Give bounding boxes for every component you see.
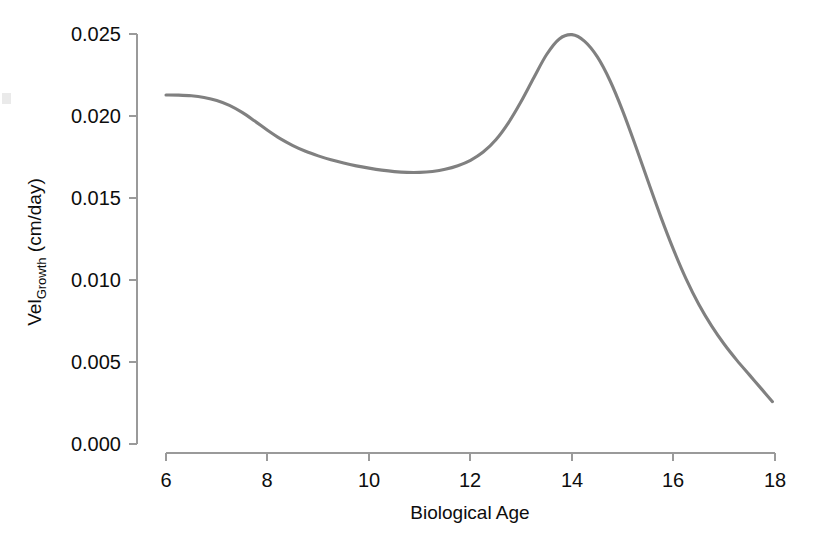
y-tick-label-0020: 0.020 (71, 105, 121, 127)
x-tick-label-14: 14 (561, 469, 583, 491)
y-axis-title: VelGrowth (cm/day) (24, 178, 49, 326)
y-tick-label-0015: 0.015 (71, 187, 121, 209)
x-axis-title: Biological Age (410, 502, 529, 523)
y-tick-label-0025: 0.025 (71, 23, 121, 45)
svg-text:VelGrowth (cm/day): VelGrowth (cm/day) (24, 178, 49, 326)
page-edge-artifact (2, 93, 11, 104)
x-tick-label-6: 6 (160, 469, 171, 491)
y-axis-title-units: (cm/day) (24, 178, 45, 252)
y-axis-title-subscript: Growth (34, 257, 49, 299)
y-tick-label-0010: 0.010 (71, 269, 121, 291)
series-line-growth-velocity (166, 35, 772, 402)
x-tick-label-18: 18 (764, 469, 786, 491)
y-tick-label-0005: 0.005 (71, 351, 121, 373)
x-axis (166, 453, 775, 461)
growth-velocity-line-chart: 0.025 0.020 0.015 0.010 0.005 0.000 6 8 … (0, 0, 817, 542)
x-tick-label-12: 12 (459, 469, 481, 491)
x-tick-label-10: 10 (358, 469, 380, 491)
y-axis (129, 34, 137, 444)
x-tick-label-16: 16 (662, 469, 684, 491)
chart-figure: 0.025 0.020 0.015 0.010 0.005 0.000 6 8 … (0, 0, 817, 542)
x-tick-label-8: 8 (261, 469, 272, 491)
y-axis-title-main: Vel (24, 299, 45, 325)
y-tick-label-0000: 0.000 (71, 433, 121, 455)
